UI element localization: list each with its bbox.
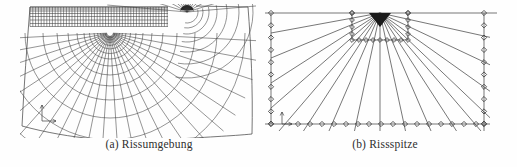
caption-b: (b) Rissspitze	[258, 138, 512, 156]
mesh-figure-crack-tip	[258, 0, 517, 138]
caption-a: (a) Rissumgebung	[20, 138, 278, 156]
mesh-figure-crack-surroundings	[0, 0, 258, 138]
figure-panel: (a) Rissumgebung (b) Rissspitze	[0, 0, 517, 167]
